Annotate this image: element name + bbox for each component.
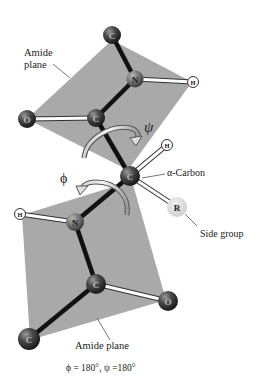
- atom-c-top: C: [103, 26, 121, 44]
- atom-c-carbonyl-top: C: [87, 109, 105, 127]
- atom-c-alpha: C: [120, 166, 140, 186]
- svg-text:O: O: [164, 297, 171, 307]
- atom-n-bottom: N: [66, 213, 84, 231]
- svg-text:N: N: [132, 75, 139, 85]
- label-phi: ϕ: [60, 171, 67, 186]
- atom-r-side-group: R: [167, 197, 187, 217]
- label-amide-plane-bottom: Amide plane: [75, 340, 129, 351]
- atom-n-top: N: [127, 71, 144, 88]
- label-alpha-carbon: α-Carbon: [167, 167, 205, 178]
- svg-text:C: C: [127, 172, 134, 182]
- peptide-diagram: C N H C O H C R N H C O: [0, 0, 266, 390]
- svg-text:C: C: [93, 114, 100, 124]
- atom-o-top: O: [18, 110, 36, 128]
- svg-text:H: H: [17, 211, 22, 218]
- atom-o-bottom: O: [158, 291, 178, 311]
- atom-c-carbonyl-bottom: C: [86, 274, 106, 294]
- atom-h-alpha: H: [162, 140, 173, 151]
- label-side-group: Side group: [200, 228, 244, 239]
- label-amide-plane-top-line1: Amide: [24, 47, 53, 58]
- svg-text:H: H: [164, 142, 169, 149]
- atom-c-bottom: C: [18, 328, 40, 350]
- label-amide-plane-top-line2: plane: [24, 59, 47, 70]
- svg-text:R: R: [174, 203, 181, 213]
- atom-h-bottom: H: [15, 209, 26, 220]
- svg-text:C: C: [26, 335, 33, 345]
- svg-text:H: H: [190, 79, 195, 86]
- svg-text:C: C: [109, 31, 116, 41]
- caption-angles: ϕ = 180°, ψ =180°: [66, 363, 136, 373]
- svg-text:O: O: [23, 115, 30, 125]
- label-psi: ψ: [144, 119, 154, 135]
- atom-h-top: H: [188, 77, 199, 88]
- svg-text:N: N: [72, 218, 79, 228]
- svg-text:C: C: [93, 280, 100, 290]
